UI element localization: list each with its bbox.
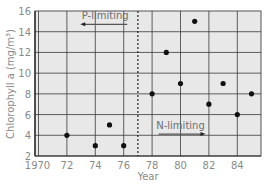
- y-tick-label: 14: [18, 27, 31, 38]
- annotation-label: N-limiting: [156, 120, 205, 131]
- y-tick-label: 8: [25, 89, 31, 100]
- data-point: [107, 122, 112, 127]
- y-tick-label: 4: [25, 130, 31, 141]
- x-tick-label: 80: [174, 160, 187, 171]
- data-point: [249, 91, 254, 96]
- x-tick-label: 74: [89, 160, 102, 171]
- data-point: [206, 102, 211, 107]
- y-axis-ticks: 246810121416: [18, 6, 31, 162]
- scatter-chart: P-limitingN-limiting 197072747678808284 …: [0, 0, 270, 191]
- x-axis-label: Year: [136, 171, 159, 182]
- y-tick-label: 6: [25, 110, 31, 121]
- y-tick-label: 2: [25, 151, 31, 162]
- data-point: [93, 143, 98, 148]
- data-point: [121, 143, 126, 148]
- y-axis-label: Chlorophyll a (mg/m³): [5, 29, 16, 139]
- y-tick-label: 12: [18, 47, 31, 58]
- data-point: [64, 133, 69, 138]
- annotation-label: P-limiting: [82, 10, 129, 21]
- y-tick-label: 16: [18, 6, 31, 17]
- y-tick-label: 10: [18, 68, 31, 79]
- data-point: [235, 112, 240, 117]
- data-point: [192, 19, 197, 24]
- data-point: [221, 81, 226, 86]
- x-tick-label: 84: [231, 160, 244, 171]
- x-tick-label: 78: [146, 160, 159, 171]
- data-point: [150, 91, 155, 96]
- x-axis-ticks: 197072747678808284: [25, 160, 244, 171]
- data-point: [178, 81, 183, 86]
- x-tick-label: 72: [61, 160, 74, 171]
- x-tick-label: 76: [117, 160, 130, 171]
- data-point: [164, 50, 169, 55]
- x-tick-label: 82: [203, 160, 216, 171]
